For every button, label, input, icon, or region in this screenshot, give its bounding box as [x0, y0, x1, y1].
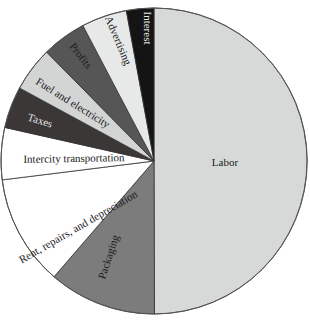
label-intercity: Intercity transportation — [23, 151, 125, 165]
pie-chart: Labor Packaging Rent, repairs, and depre… — [0, 0, 310, 323]
label-interest: Interest — [142, 12, 154, 45]
label-labor: Labor — [212, 156, 239, 168]
